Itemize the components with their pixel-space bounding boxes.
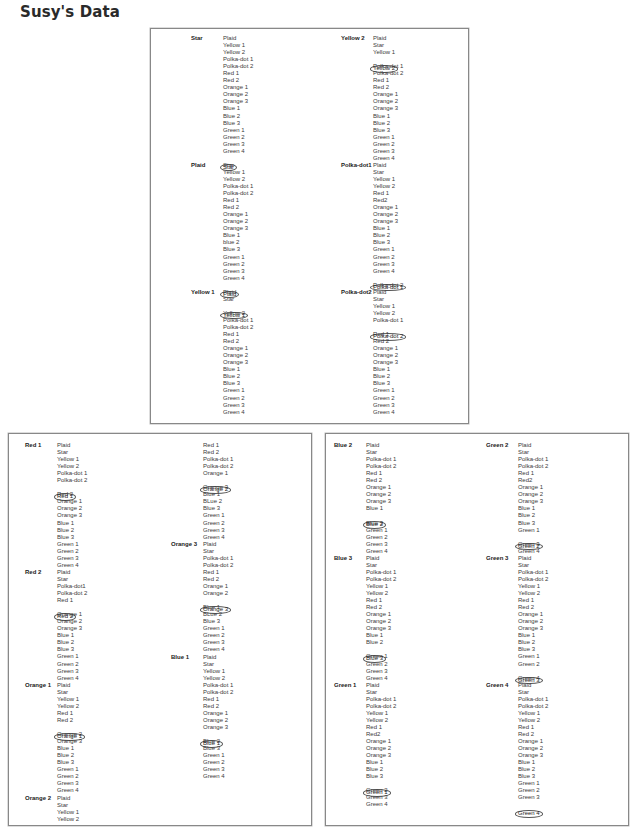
list-item: Red2 (373, 197, 406, 204)
list-item: Blue 3 (223, 120, 253, 127)
list-item: Red 2 (373, 84, 403, 91)
list-item: Plaid (203, 541, 233, 548)
list-item: Blue 3 (57, 534, 87, 541)
list-item: Red 2 (366, 604, 396, 611)
list-item: Orange 3 (518, 752, 548, 759)
list-item: Yellow 1 (223, 169, 253, 176)
list-item: Orange 3 (366, 498, 396, 505)
list-item: Green 4 (223, 409, 253, 416)
list-item: Green 4 (57, 675, 87, 682)
list-item: Blue 1 (518, 505, 548, 512)
list-item: Orange 1 (373, 91, 403, 98)
list-item: Orange 1 (366, 738, 396, 745)
list-item: Green 1 (203, 512, 233, 519)
list-item: Orange 3 (373, 359, 406, 366)
list-item: Orange 3 (366, 625, 396, 632)
list-item: Orange 1 (57, 611, 87, 618)
list-item: Blue 1 (223, 366, 253, 373)
list-item: Yellow 1 (373, 176, 406, 183)
list-item: Orange 1 (366, 484, 396, 491)
list-item: Red 1 (203, 696, 233, 703)
list-item: Blue 2 (223, 113, 253, 120)
list-item: Star (366, 562, 396, 569)
list-item: Red 2 (203, 449, 233, 456)
list-item: Blue 3 (203, 618, 233, 625)
list-item: Red 1 (366, 597, 396, 604)
list-item: Yellow 1 (223, 42, 253, 49)
list-item: Plaid (57, 569, 87, 576)
list-item: Polka-dot 2 (373, 70, 403, 77)
list-item: Orange 1 (203, 710, 233, 717)
list-item: Blue 1 (518, 632, 548, 639)
circled-list-item: Green 4 (515, 810, 543, 818)
list-item: Blue 2 (57, 639, 87, 646)
list-item: Green 1 (373, 387, 406, 394)
list-item: Orange 1 (223, 211, 253, 218)
list-item: Green 1 (518, 780, 548, 787)
list-item: Blue 2 (223, 373, 253, 380)
list-item: Polka-dot 1 (518, 456, 548, 463)
group-label: Blue 2 (334, 442, 352, 449)
group-label: Green 3 (486, 555, 508, 562)
list-item: Green 3 (518, 541, 548, 548)
list-item: Green 4 (57, 787, 85, 794)
list-item: Yellow 1 (518, 583, 548, 590)
list-item: Polka-dot 1 (57, 470, 87, 477)
list-item: Green 1 (57, 541, 87, 548)
list-item: Green 4 (203, 773, 233, 780)
list-item: Green 3 (223, 141, 253, 148)
list-item: Orange 3 (57, 512, 87, 519)
list-item: Orange 2 (223, 91, 253, 98)
list-item: Green 3 (366, 541, 396, 548)
list-item: Star (223, 162, 253, 169)
list-item: Green 2 (518, 661, 548, 668)
group-items: PlaidStarPolka-dot 1Polka-dot 2Yellow 1Y… (518, 555, 548, 682)
list-item: Star (373, 169, 406, 176)
list-item: Yellow 1 (373, 49, 403, 56)
list-item: BLue 2 (203, 611, 233, 618)
list-item: Red 1 (373, 190, 406, 197)
list-item: Orange 2 (373, 98, 403, 105)
list-item: Star (518, 689, 548, 696)
list-item: Blue 1 (223, 105, 253, 112)
list-item: Green 2 (366, 661, 396, 668)
list-item: Plaid (373, 289, 406, 296)
list-item: Green 1 (366, 527, 396, 534)
panel-top: StarPlaidYellow 1Yellow 2Polka-dot 1Polk… (150, 28, 469, 424)
list-item: Polka-dot1 (57, 583, 87, 590)
list-item: Green 2 (366, 787, 396, 794)
list-item: Red 1 (518, 470, 548, 477)
list-item: Yellow 2 (223, 176, 253, 183)
list-item: Orange 2 (57, 731, 85, 738)
list-item: Green 1 (373, 246, 406, 253)
list-item: Polka-dot 2 (57, 590, 87, 597)
list-item: Yellow 1 (57, 456, 87, 463)
list-item: Blue 3 (373, 127, 403, 134)
group-items: PlaidStarPolka-dot 1Polka-dot 2Red 1Red2… (518, 442, 548, 555)
list-item: Plaid (223, 35, 253, 42)
list-item: Polka-dot 2 (57, 477, 87, 484)
list-item: Orange 3 (518, 498, 548, 505)
list-item: Green 2 (57, 661, 87, 668)
list-item: Green 2 (373, 141, 403, 148)
group-items: PlaidStarYellow 1Yellow 2Polka-dot 1Polk… (373, 289, 406, 416)
list-item: Polka-dot 1 (373, 63, 403, 70)
list-item: Polka-dot 2 (223, 324, 253, 331)
list-item: Red 2 (203, 703, 233, 710)
page-title: Susy's Data (20, 3, 120, 21)
list-item: Red 1 (518, 724, 548, 731)
list-item: Orange 1 (373, 204, 406, 211)
list-item: Star (366, 449, 396, 456)
list-item: Orange 3 (223, 98, 253, 105)
list-item: Yellow 2 (518, 717, 548, 724)
group-items: PlaidStarYellow 1Yellow 2Red 1Red2Orange… (373, 162, 406, 289)
group-label: Orange 3 (171, 541, 197, 548)
list-item: Star (518, 562, 548, 569)
list-item: Orange 1 (518, 611, 548, 618)
list-item: Red 1 (223, 331, 253, 338)
group-label: Plaid (191, 162, 205, 169)
group-items: PlaidStarYellow 1Yellow 2Polka-dot 1Polk… (203, 654, 233, 781)
list-item: Plaid (57, 795, 79, 802)
list-item: Blue 2 (518, 639, 548, 646)
list-item: Orange 3 (373, 218, 406, 225)
